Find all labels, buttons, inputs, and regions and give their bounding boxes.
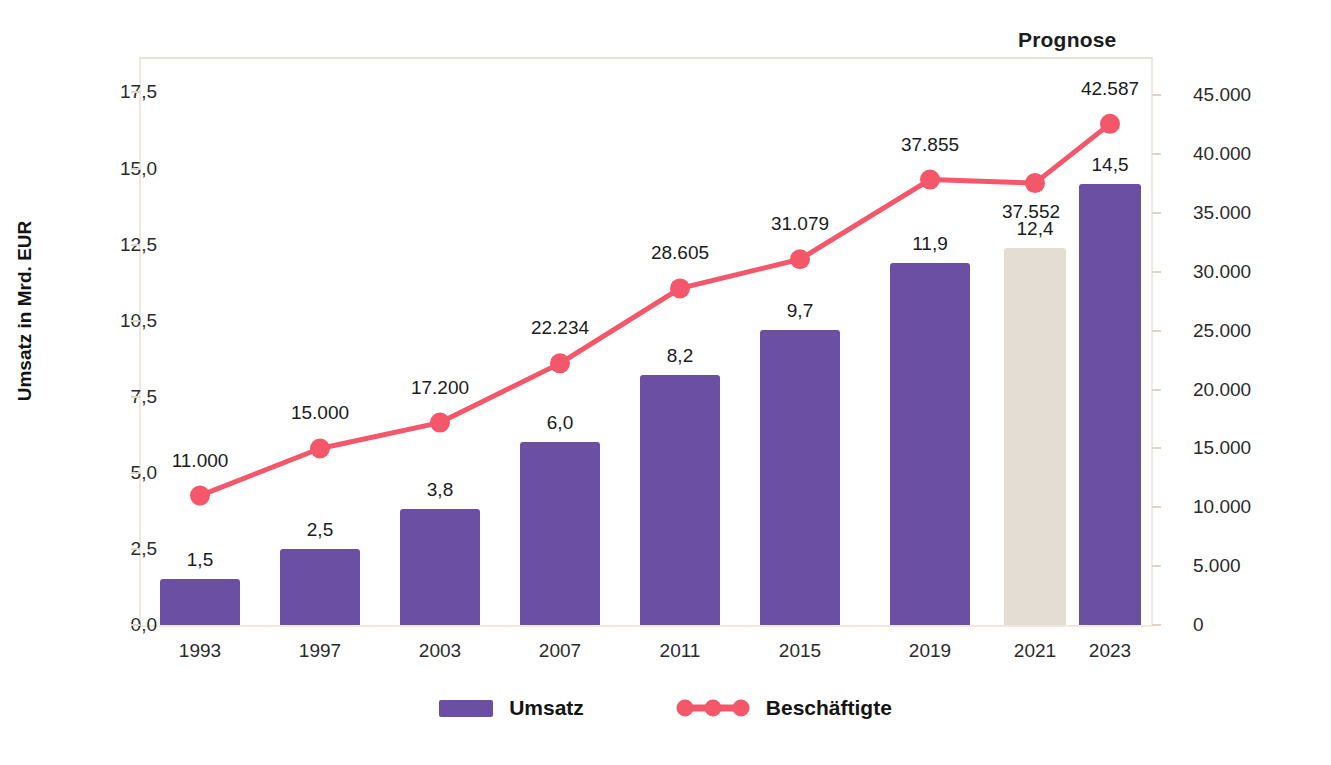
line-value-label-2011: 28.605 (651, 242, 709, 264)
x-tick-label: 2019 (909, 640, 951, 662)
legend-swatch-bar-icon (439, 700, 493, 717)
y-tick-label-right: 45.000 (1193, 85, 1323, 104)
x-tick-label: 2003 (419, 640, 461, 662)
bar-2011[interactable] (640, 375, 720, 625)
legend-label-beschaeftigte: Beschäftigte (766, 696, 892, 720)
x-tick-label: 1993 (179, 640, 221, 662)
bar-value-label-1997: 2,5 (307, 519, 333, 541)
bar-value-label-2011: 8,2 (667, 345, 693, 367)
y-tick-mark-right (1152, 565, 1161, 567)
y-tick-label-right: 5.000 (1193, 556, 1323, 575)
legend-label-umsatz: Umsatz (509, 696, 584, 720)
y-axis-title-left: Umsatz in Mrd. EUR (14, 101, 36, 521)
y-tick-mark-right (1152, 624, 1161, 626)
y-tick-mark-right (1152, 212, 1161, 214)
y-tick-mark-left (131, 396, 140, 398)
bar-1997[interactable] (280, 549, 360, 625)
legend-swatch-line-icon (676, 698, 750, 718)
y-tick-mark-left (131, 320, 140, 322)
y-tick-mark-right (1152, 506, 1161, 508)
bar-value-label-2015: 9,7 (787, 300, 813, 322)
bar-value-label-1993: 1,5 (187, 549, 213, 571)
bar-value-label-2019: 11,9 (912, 233, 948, 255)
bar-2019[interactable] (890, 263, 970, 625)
line-value-label-2007: 22.234 (531, 317, 589, 339)
x-tick-label: 2015 (779, 640, 821, 662)
y-tick-mark-left (131, 168, 140, 170)
y-tick-label-right: 25.000 (1193, 321, 1323, 340)
line-value-label-1997: 15.000 (291, 402, 349, 424)
bar-value-label-2007: 6,0 (547, 412, 573, 434)
bar-2007[interactable] (520, 442, 600, 625)
bar-2021[interactable] (1004, 248, 1066, 625)
bar-2003[interactable] (400, 509, 480, 625)
y-tick-mark-right (1152, 389, 1161, 391)
y-tick-mark-right (1152, 447, 1161, 449)
chart-legend: Umsatz Beschäftigte (0, 696, 1331, 720)
y-tick-mark-right (1152, 94, 1161, 96)
line-value-label-1993: 11.000 (172, 450, 229, 472)
y-tick-label-right: 20.000 (1193, 380, 1323, 399)
x-tick-label: 2011 (660, 640, 701, 662)
y-tick-label-right: 35.000 (1193, 203, 1323, 222)
y-tick-mark-left (131, 624, 140, 626)
line-value-label-2021: 37.552 (1002, 201, 1060, 223)
y-tick-label-right: 40.000 (1193, 144, 1323, 163)
bar-value-label-2023: 14,5 (1092, 154, 1129, 176)
y-tick-mark-left (131, 548, 140, 550)
y-tick-mark-left (131, 244, 140, 246)
legend-item-beschaeftigte[interactable]: Beschäftigte (676, 696, 892, 720)
bar-1993[interactable] (160, 579, 240, 625)
prognose-annotation: Prognose (1018, 28, 1116, 52)
x-tick-label: 2021 (1014, 640, 1056, 662)
line-value-label-2019: 37.855 (901, 134, 959, 156)
y-tick-mark-left (131, 472, 140, 474)
y-tick-label-right: 10.000 (1193, 497, 1323, 516)
chart-figure: Prognose Umsatz in Mrd. EUR Beschäftigte… (0, 0, 1331, 765)
x-tick-label: 1997 (299, 640, 341, 662)
y-tick-label-right: 0 (1193, 615, 1323, 634)
bar-2015[interactable] (760, 330, 840, 625)
y-tick-mark-right (1152, 271, 1161, 273)
bar-2023[interactable] (1079, 184, 1141, 625)
line-value-label-2023: 42.587 (1081, 78, 1139, 100)
legend-item-umsatz[interactable]: Umsatz (439, 696, 584, 720)
y-tick-label-right: 30.000 (1193, 262, 1323, 281)
x-tick-label: 2007 (539, 640, 581, 662)
y-tick-mark-left (131, 91, 140, 93)
y-tick-mark-right (1152, 330, 1161, 332)
x-tick-label: 2023 (1089, 640, 1131, 662)
y-tick-mark-right (1152, 153, 1161, 155)
bar-value-label-2003: 3,8 (427, 479, 453, 501)
line-value-label-2015: 31.079 (771, 213, 829, 235)
line-value-label-2003: 17.200 (411, 377, 469, 399)
y-tick-label-right: 15.000 (1193, 438, 1323, 457)
